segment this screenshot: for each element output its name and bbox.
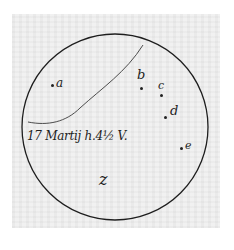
field-of-view-circle (22, 34, 208, 220)
center-label: z (99, 172, 107, 188)
star-d-label: d (170, 104, 178, 117)
telescope-field-drawing (0, 0, 234, 250)
star-e-dot (180, 147, 183, 150)
star-c-label: c (158, 80, 164, 91)
star-b-label: b (137, 68, 145, 81)
star-b-dot (140, 87, 143, 90)
observation-caption: 17 Martij h.4½ V. (27, 130, 127, 142)
observation-sketch: a b c d e 17 Martij h.4½ V. z (0, 0, 234, 250)
star-a-label: a (56, 77, 63, 89)
star-e-label: e (185, 140, 192, 151)
boundary-arc (28, 45, 143, 123)
star-d-dot (164, 116, 167, 119)
star-c-dot (160, 94, 163, 97)
star-a-dot (51, 84, 54, 87)
